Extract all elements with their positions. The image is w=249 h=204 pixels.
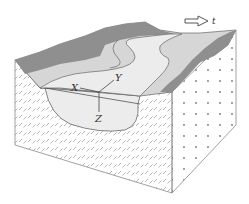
arrow-right-icon	[185, 16, 208, 26]
flow-arrow: t	[185, 16, 216, 26]
flow-arrow-label: t	[212, 16, 216, 26]
z-axis-label: Z	[94, 113, 103, 124]
x-axis-label: X	[70, 82, 79, 93]
river-block-diagram: X Y Z t	[0, 0, 249, 204]
